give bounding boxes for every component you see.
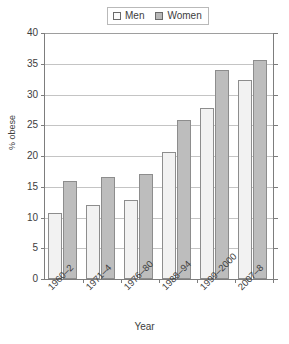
y-axis-title: % obese [8, 103, 17, 163]
legend-label-women: Women [167, 11, 201, 21]
legend-swatch-women-icon [155, 12, 163, 20]
x-axis-tick [273, 279, 274, 283]
bar-group [197, 33, 232, 279]
y-axis-tick-right [273, 248, 278, 249]
y-axis-tick-label: 30 [27, 90, 38, 100]
legend-swatch-men-icon [113, 12, 121, 20]
y-axis-tick [41, 279, 45, 280]
bar-group [159, 33, 194, 279]
bar-women [253, 60, 267, 279]
bar-group [121, 33, 156, 279]
y-axis-tick-label: 40 [27, 28, 38, 38]
y-axis-tick-label: 5 [32, 243, 38, 253]
bar-chart: Men Women % obese 0510152025303540 1960–… [0, 0, 289, 344]
bar-group [83, 33, 118, 279]
bar-men [238, 80, 252, 279]
bar-women [177, 120, 191, 279]
y-axis-tick-right [273, 64, 278, 65]
y-axis-tick-right [273, 187, 278, 188]
bar-group [235, 33, 270, 279]
bar-women [215, 70, 229, 279]
bar-series-container [45, 33, 273, 279]
y-axis-tick-right [273, 218, 278, 219]
y-axis-tick-right [273, 95, 278, 96]
bar-group [45, 33, 80, 279]
y-axis-tick-label: 15 [27, 182, 38, 192]
bar-men [162, 152, 176, 279]
y-axis-tick-label: 0 [32, 274, 38, 284]
y-axis-tick-label: 25 [27, 120, 38, 130]
bar-men [200, 108, 214, 279]
legend-label-men: Men [125, 11, 144, 21]
y-axis-tick-right [273, 156, 278, 157]
x-axis-title: Year [0, 322, 289, 332]
y-axis-tick-label: 10 [27, 213, 38, 223]
legend-entry-women: Women [155, 11, 201, 21]
legend-entry-men: Men [113, 11, 144, 21]
y-axis-tick-label: 35 [27, 59, 38, 69]
chart-legend: Men Women [107, 7, 209, 25]
y-axis-tick-right [273, 125, 278, 126]
plot-area: 0510152025303540 [44, 33, 274, 280]
bar-men [124, 200, 138, 279]
y-axis-tick-right [273, 33, 278, 34]
y-axis-tick-label: 20 [27, 151, 38, 161]
